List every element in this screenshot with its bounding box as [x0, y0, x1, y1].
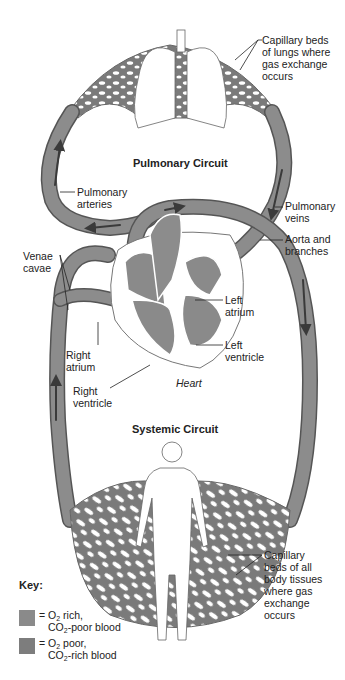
label-capillary-lungs: Capillary beds of lungs where gas exchan… [262, 34, 330, 82]
label-right-atrium: Right atrium [66, 349, 95, 373]
label-line: arteries [77, 198, 127, 210]
label-line: Left [225, 294, 254, 306]
label-heart: Heart [176, 377, 202, 389]
label-line: atrium [225, 306, 254, 318]
label-line: Capillary [264, 549, 322, 561]
label-line: Right [66, 349, 95, 361]
key-title: Key: [19, 579, 43, 591]
label-line: cavae [23, 262, 53, 274]
pulmonary-circuit-title: Pulmonary Circuit [133, 157, 228, 169]
label-aorta: Aorta and branches [285, 233, 331, 257]
label-line: Venae [23, 250, 53, 262]
label-line: ventricle [73, 397, 112, 409]
label-line: gas exchange [262, 58, 330, 70]
label-line: exchange [264, 597, 322, 609]
label-line: occurs [262, 70, 330, 82]
label-line: occurs [264, 609, 322, 621]
label-line: Right [73, 385, 112, 397]
label-line: body tissues [264, 573, 322, 585]
label-line: Pulmonary [285, 200, 335, 212]
key-text: = O2 rich, CO2-poor blood [39, 609, 121, 633]
label-line: branches [285, 245, 331, 257]
swatch-oxygen-poor [19, 638, 35, 654]
key-item-oxygen-rich: = O2 rich, CO2-poor blood [19, 609, 121, 633]
swatch-oxygen-rich [19, 610, 35, 626]
label-left-ventricle: Left ventricle [225, 339, 264, 363]
label-pulmonary-arteries: Pulmonary arteries [77, 186, 127, 210]
label-capillary-body: Capillary beds of all body tissues where… [264, 549, 322, 621]
label-line: Aorta and [285, 233, 331, 245]
label-right-ventricle: Right ventricle [73, 385, 112, 409]
label-left-atrium: Left atrium [225, 294, 254, 318]
key-item-oxygen-poor: = O2 poor, CO2-rich blood [19, 637, 117, 661]
label-line: Left [225, 339, 264, 351]
label-pulmonary-veins: Pulmonary veins [285, 200, 335, 224]
label-line: Capillary beds [262, 34, 330, 46]
label-line: Pulmonary [77, 186, 127, 198]
label-line: veins [285, 212, 335, 224]
label-line: beds of all [264, 561, 322, 573]
label-line: atrium [66, 361, 95, 373]
label-line: where gas [264, 585, 322, 597]
label-venae-cavae: Venae cavae [23, 250, 53, 274]
systemic-circuit-title: Systemic Circuit [132, 423, 218, 435]
label-line: of lungs where [262, 46, 330, 58]
label-line: ventricle [225, 351, 264, 363]
key-text: = O2 poor, CO2-rich blood [39, 637, 117, 661]
